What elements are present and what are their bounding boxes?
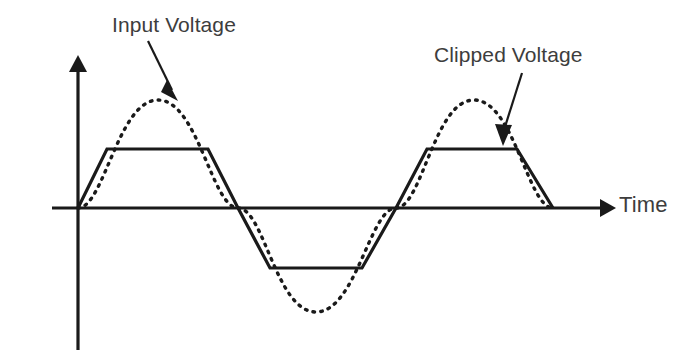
waveform-svg (0, 0, 699, 363)
input-voltage-label: Input Voltage (112, 14, 236, 35)
clipped-voltage-arrow-icon (495, 124, 512, 146)
input-voltage-waveform (78, 100, 553, 312)
clipped-voltage-callout-arrow (495, 73, 522, 146)
clipped-voltage-label: Clipped Voltage (434, 44, 583, 65)
x-axis-arrow-icon (600, 199, 616, 217)
y-axis-arrow-icon (69, 55, 87, 72)
clipped-voltage-leader-line (504, 73, 522, 130)
time-axis-label: Time (619, 194, 667, 216)
input-voltage-leader-line (148, 41, 172, 90)
input-voltage-callout-arrow (148, 41, 178, 101)
figure-canvas: Input Voltage Clipped Voltage Time (0, 0, 699, 363)
